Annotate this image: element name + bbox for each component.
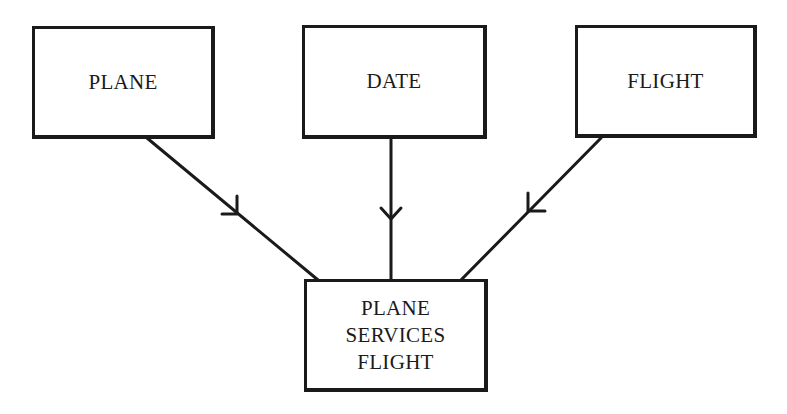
label-line-1: PLANE <box>346 295 446 322</box>
entity-date: DATE <box>302 25 487 139</box>
edge-plane-to-services <box>147 138 318 280</box>
diagram-canvas: PLANE DATE FLIGHT PLANE SERVICES FLIGHT <box>0 0 787 414</box>
edge-flight-to-services <box>461 138 601 280</box>
label-line-2: SERVICES <box>346 322 446 349</box>
entity-plane-services-flight: PLANE SERVICES FLIGHT <box>304 279 488 392</box>
entity-flight-label: FLIGHT <box>627 69 703 94</box>
entity-flight: FLIGHT <box>575 25 757 138</box>
entity-plane-services-flight-label: PLANE SERVICES FLIGHT <box>346 295 446 376</box>
label-line-3: FLIGHT <box>346 349 446 376</box>
entity-plane-label: PLANE <box>88 70 157 95</box>
entity-date-label: DATE <box>367 69 422 94</box>
entity-plane: PLANE <box>32 26 215 139</box>
